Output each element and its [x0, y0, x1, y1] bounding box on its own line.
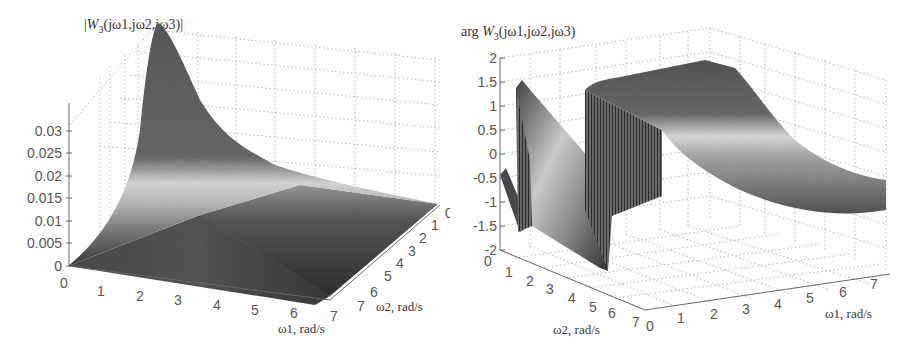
svg-text:3: 3: [174, 292, 182, 308]
svg-text:2: 2: [489, 50, 497, 66]
svg-text:4: 4: [213, 297, 221, 313]
svg-text:3: 3: [546, 281, 554, 297]
svg-text:3: 3: [742, 301, 750, 317]
x-axis-label: ω1, rad/s: [278, 321, 325, 336]
svg-text:5: 5: [384, 268, 392, 284]
svg-text:0: 0: [54, 258, 62, 274]
svg-text:0: 0: [60, 275, 68, 291]
phase-surface-svg: -2 -1.5 -1 -0.5 0 0.5 1 1.5 2 0 1 2 3 4 …: [450, 0, 900, 342]
svg-text:5: 5: [589, 299, 597, 315]
svg-text:0.02: 0.02: [35, 168, 62, 184]
svg-text:6: 6: [290, 305, 298, 321]
svg-text:6: 6: [839, 284, 847, 300]
svg-text:4: 4: [396, 255, 404, 271]
svg-text:0.015: 0.015: [27, 190, 62, 206]
svg-text:0: 0: [646, 318, 654, 334]
svg-text:-0.5: -0.5: [473, 170, 497, 186]
svg-text:4: 4: [774, 296, 782, 312]
svg-text:2: 2: [419, 230, 427, 246]
y-axis-label: ω2, rad/s: [553, 322, 600, 337]
svg-text:1: 1: [97, 283, 105, 299]
magnitude-plot: |W3(jω1,jω2,jω3)|: [0, 0, 450, 342]
x-axis-line: [645, 274, 890, 310]
svg-text:7: 7: [870, 276, 878, 292]
svg-text:-1: -1: [485, 194, 498, 210]
svg-text:5: 5: [251, 302, 259, 318]
svg-text:0.03: 0.03: [35, 123, 62, 139]
svg-text:2: 2: [710, 306, 718, 322]
svg-text:6: 6: [370, 284, 378, 300]
z-axis-ticks: 0 0.005 0.01 0.015 0.02 0.025 0.03: [27, 123, 72, 274]
phase-plot: arg W3(jω1,jω2,jω3): [450, 0, 900, 342]
svg-text:0.01: 0.01: [35, 213, 62, 229]
y-axis-label: ω2, rad/s: [376, 299, 423, 314]
svg-text:5: 5: [806, 290, 814, 306]
svg-text:1.5: 1.5: [478, 74, 498, 90]
svg-text:7: 7: [330, 308, 338, 324]
svg-text:7: 7: [357, 298, 365, 314]
svg-text:2: 2: [526, 273, 534, 289]
svg-text:1: 1: [677, 310, 685, 326]
svg-text:-1.5: -1.5: [473, 218, 497, 234]
svg-text:1: 1: [431, 217, 439, 233]
svg-text:2: 2: [136, 288, 144, 304]
svg-text:0: 0: [489, 146, 497, 162]
svg-text:1: 1: [505, 264, 513, 280]
svg-text:0.005: 0.005: [27, 235, 62, 251]
svg-text:4: 4: [568, 290, 576, 306]
magnitude-surface-svg: 0 0.005 0.01 0.015 0.02 0.025 0.03 0 1 2…: [0, 0, 450, 342]
svg-text:3: 3: [408, 243, 416, 259]
svg-text:0.5: 0.5: [478, 122, 498, 138]
x-axis-label: ω1, rad/s: [825, 306, 872, 321]
svg-text:1: 1: [489, 98, 497, 114]
svg-text:7: 7: [632, 314, 640, 330]
svg-text:0.025: 0.025: [27, 145, 62, 161]
svg-text:6: 6: [608, 305, 616, 321]
svg-text:0: 0: [484, 253, 492, 269]
